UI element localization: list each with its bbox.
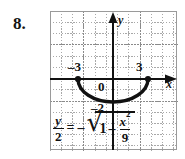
fraction-numerator: x2 [117, 114, 132, 129]
x-axis-label: x [166, 77, 172, 92]
tick-label-origin: 0 [98, 79, 105, 95]
fraction-numerator: y [53, 114, 63, 128]
fraction-denominator: 9 [120, 129, 131, 144]
negative-sign: – [77, 120, 84, 136]
arrow-up-icon [109, 12, 118, 23]
equals-sign: = [67, 120, 75, 136]
equation-expression: y 2 = – √ 1 – x2 9 [52, 112, 134, 144]
problem-number: 8. [13, 14, 26, 34]
variable-x: x [119, 114, 126, 129]
endpoint-dot-right [145, 76, 151, 82]
fraction-x2-over-9: x2 9 [117, 114, 132, 144]
figure-page: 8. [0, 0, 185, 159]
curve-lower-half-ellipse [78, 79, 148, 102]
fraction-y-over-2: y 2 [53, 114, 64, 143]
y-axis-label: y [118, 13, 123, 28]
exponent-two: 2 [126, 109, 131, 119]
radical-sign-icon: √ [86, 109, 103, 135]
radical-expression: √ 1 – x2 9 [86, 112, 134, 144]
endpoint-dot-left [75, 76, 81, 82]
fraction-denominator: 2 [53, 128, 64, 143]
tick-label-pos3: 3 [136, 59, 143, 75]
tick-label-neg3: –3 [68, 59, 81, 75]
radicand-minus-sign: – [108, 121, 115, 137]
